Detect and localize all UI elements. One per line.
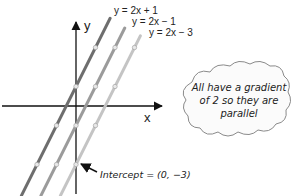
line-3-point (93, 123, 97, 127)
line-label-2: y = 2x − 1 (132, 16, 176, 27)
line-1-point (74, 84, 78, 88)
line-3-point (74, 162, 78, 166)
line-2-point (74, 123, 78, 127)
line-label-3: y = 2x − 3 (149, 27, 193, 38)
callout-line-3: parallel (219, 108, 257, 119)
parallel-lines-diagram: y x y = 2x + 1 y = 2x − 1 y = 2x − 3 Int… (0, 0, 295, 196)
line-3-point (113, 84, 117, 88)
intercept-arrow (81, 164, 97, 172)
line-label-1: y = 2x + 1 (114, 5, 158, 16)
callout-line-2: of 2 so they are (200, 95, 279, 106)
x-axis-label: x (144, 110, 151, 125)
line-1-point (35, 162, 39, 166)
line-1-point (54, 123, 58, 127)
line-2-point (113, 45, 117, 49)
line-2-point (93, 84, 97, 88)
callout-line-1: All have a gradient (191, 82, 288, 93)
y-axis-label: y (84, 18, 91, 33)
line-2-point (54, 162, 58, 166)
intercept-annotation: Intercept = (0, −3) (100, 169, 191, 180)
line-3-point (132, 45, 136, 49)
line-1-point (93, 45, 97, 49)
line-1 (21, 18, 110, 195)
